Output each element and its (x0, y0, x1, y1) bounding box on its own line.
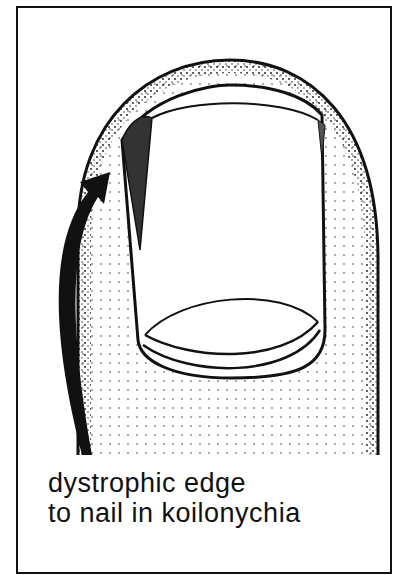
caption-line-1: dystrophic edge (48, 468, 301, 498)
figure-caption: dystrophic edge to nail in koilonychia (48, 468, 301, 528)
nail (122, 85, 325, 378)
caption-line-2: to nail in koilonychia (48, 498, 301, 528)
